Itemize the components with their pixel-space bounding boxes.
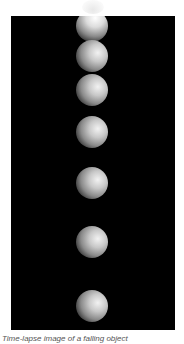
ball-glow: [82, 0, 104, 14]
falling-ball-5: [76, 167, 108, 199]
time-lapse-photo: [11, 16, 175, 330]
figure: Time-lapse image of a falling object: [0, 0, 184, 344]
falling-ball-6: [76, 226, 108, 258]
figure-caption: Time-lapse image of a falling object: [2, 334, 128, 344]
falling-ball-4: [76, 116, 108, 148]
falling-ball-7: [76, 290, 108, 322]
falling-ball-2: [76, 40, 108, 72]
falling-ball-1: [76, 16, 108, 42]
falling-ball-3: [76, 74, 108, 106]
